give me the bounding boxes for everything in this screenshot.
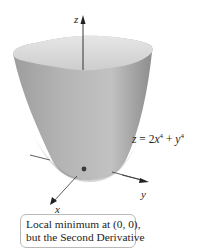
z-axis-label: z	[74, 14, 78, 25]
equation-exp-y: 4	[180, 132, 184, 140]
annotation-callout-box: Local minimum at (0, 0), but the Second …	[20, 214, 136, 248]
equation-lhs: z	[132, 133, 136, 145]
z-axis-arrowhead-icon	[81, 15, 86, 24]
surface-equation-label: z = 2x4 + y4	[132, 133, 184, 145]
y-axis-arrowhead-icon	[139, 178, 149, 183]
y-axis-label: y	[141, 189, 146, 200]
x-axis-line	[54, 176, 77, 201]
minimum-point-marker	[82, 167, 87, 172]
equation-exp-x: 4	[160, 132, 164, 140]
callout-line-1: Local minimum at (0, 0),	[26, 218, 131, 231]
callout-line-2: but the Second Derivative	[26, 231, 131, 244]
